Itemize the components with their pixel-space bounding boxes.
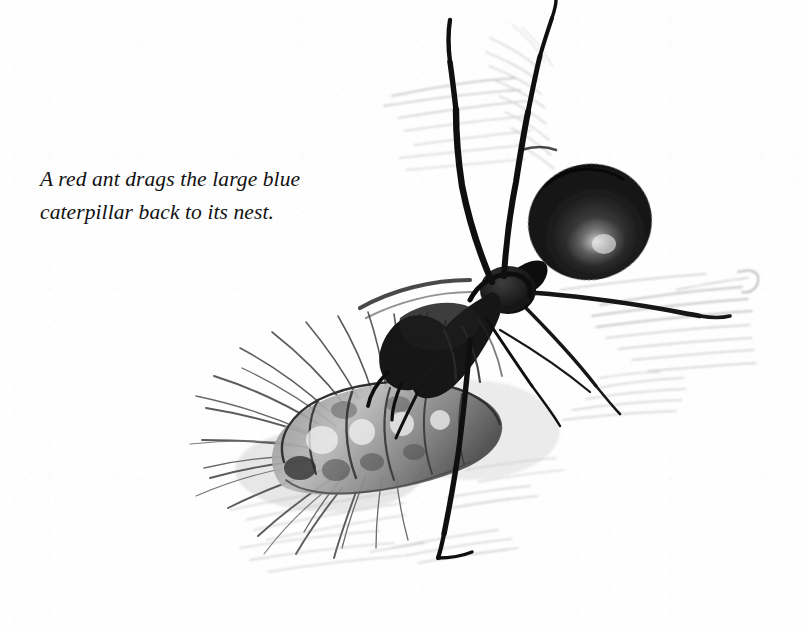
grass-strokes-right: [560, 270, 758, 420]
illustration-caption: A red ant drags the large blue caterpill…: [40, 163, 370, 229]
grass-strokes-lower: [240, 531, 402, 572]
illustration-page: A red ant drags the large blue caterpill…: [0, 0, 807, 630]
ant-caterpillar-drawing: [0, 0, 807, 630]
